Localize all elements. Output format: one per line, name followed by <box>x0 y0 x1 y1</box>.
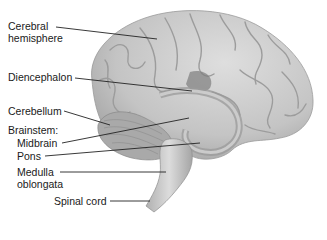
label-spinal-cord: Spinal cord <box>54 195 107 207</box>
label-medulla-1: Medulla <box>17 166 54 178</box>
label-cerebral-hemisphere-1: Cerebral <box>8 20 48 32</box>
label-diencephalon: Diencephalon <box>8 71 72 83</box>
label-cerebral-hemisphere-2: hemisphere <box>8 32 63 44</box>
label-medulla-2: oblongata <box>17 178 63 190</box>
label-midbrain: Midbrain <box>17 137 57 149</box>
label-pons: Pons <box>17 150 41 162</box>
label-cerebellum: Cerebellum <box>8 105 62 117</box>
label-brainstem: Brainstem: <box>8 124 58 136</box>
